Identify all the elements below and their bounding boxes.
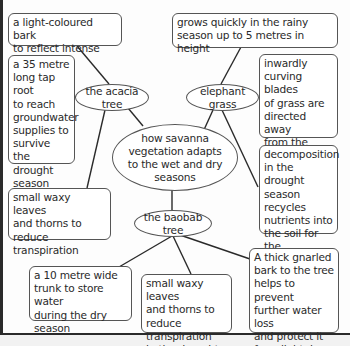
fact-baobab-trunk: a 10 metre wide trunk to store water dur… (29, 266, 132, 321)
link-baobab-trunk (119, 236, 172, 267)
link-acacia-center (128, 108, 143, 126)
fact-baobab-bark: A thick gnarled bark to the tree helps t… (249, 248, 339, 333)
node-elephant-grass: elephant grass (186, 84, 259, 111)
fact-acacia-tap-root: a 35 metre long tap root to reach ground… (8, 55, 75, 164)
node-baobab-tree: the baobab tree (134, 210, 212, 237)
link-baobab-leaves (173, 236, 191, 274)
fact-grass-blades: inwardly curving blades of grass are dir… (259, 54, 338, 138)
link-acacia-leaves (87, 110, 105, 188)
node-acacia-tree: the acacia tree (75, 84, 149, 111)
fact-baobab-leaves: small waxy leaves and thorns to reduce t… (141, 274, 232, 333)
fact-grass-growth: grows quickly in the rainy season up to … (172, 13, 338, 48)
spider-diagram: how savanna vegetation adapts to the wet… (0, 0, 350, 346)
central-topic: how savanna vegetation adapts to the wet… (112, 124, 238, 191)
link-grass-growth (221, 47, 241, 84)
fact-acacia-bark: a light-coloured bark to reflect intense… (8, 13, 122, 46)
fact-acacia-leaves: small waxy leaves and thorns to reduce t… (8, 188, 111, 240)
link-baobab-bark (180, 235, 250, 259)
fact-grass-decomposition: decomposition in the drought season recy… (259, 145, 338, 234)
